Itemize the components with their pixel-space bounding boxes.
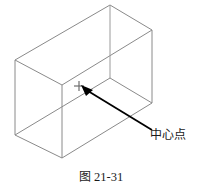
caption-prefix: 图 (79, 170, 91, 184)
box-top-face-edges (15, 5, 152, 85)
edge-bottom-front-to-right (62, 103, 152, 158)
box-vertical-edges (15, 5, 152, 158)
edge-left-top-to-front-top (15, 60, 62, 85)
edge-left-top-to-back-top (15, 5, 110, 60)
edge-front-top-to-right-top (62, 30, 152, 85)
figure-caption: 图 21-31 (0, 169, 202, 185)
edge-back-top-to-right-top (110, 5, 152, 30)
figure-container: 中心点 图 21-31 (0, 0, 202, 193)
callout-arrow (81, 85, 152, 130)
isometric-box-diagram (0, 0, 202, 193)
edge-bottom-left-to-front (15, 135, 62, 158)
center-point-label: 中心点 (150, 128, 186, 143)
caption-number: 21-31 (94, 170, 123, 184)
edge-bottom-back-to-right (110, 78, 152, 103)
